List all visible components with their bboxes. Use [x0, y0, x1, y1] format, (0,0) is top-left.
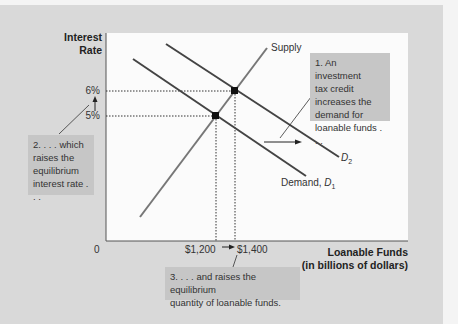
note1-line: tax credit	[315, 82, 385, 95]
supply-label: Supply	[271, 42, 302, 54]
x-tick-1400: $1,400	[237, 244, 268, 256]
note3-leader	[233, 255, 237, 267]
y-tick-5pct: 5%	[78, 110, 100, 122]
note1-line: 1. An investment	[315, 56, 385, 82]
equilibrium-point-new	[231, 87, 238, 94]
note1-line: increases the	[315, 95, 385, 108]
demand2-label: D2	[341, 152, 352, 168]
note-3: 3. . . . and raises the equilibrium quan…	[165, 267, 300, 300]
supply-curve	[140, 48, 267, 217]
shift-arrow-head	[295, 140, 302, 145]
qty-right-arrow-head	[229, 245, 235, 250]
equilibrium-point-initial	[212, 112, 219, 119]
note3-line: 3. . . . and raises the equilibrium	[170, 270, 295, 296]
demand2-subscript: 2	[348, 158, 352, 165]
x-axis-title: Loanable Funds (in billions of dollars)	[300, 246, 408, 272]
demand1-symbol: D	[324, 177, 331, 188]
note2-line: interest rate . . .	[33, 177, 89, 203]
demand1-label: Demand, D1	[281, 177, 336, 193]
y-axis-title: Interest Rate	[40, 31, 102, 57]
note-2: 2. . . . which raises the equilibrium in…	[28, 135, 94, 195]
note-1: 1. An investment tax credit increases th…	[310, 53, 390, 121]
y-tick-6pct: 6%	[78, 85, 100, 97]
note1-line: loanable funds . . .	[315, 121, 385, 147]
demand1-subscript: 1	[332, 183, 336, 190]
note2-line: 2. . . . which	[33, 138, 89, 151]
note2-line: raises the	[33, 151, 89, 164]
y-axis-title-line2: Rate	[79, 44, 102, 56]
x-tick-1200: $1,200	[185, 244, 216, 256]
note1-line: demand for	[315, 108, 385, 121]
x-axis-title-line1: Loanable Funds	[327, 246, 408, 258]
demand1-prefix: Demand,	[281, 177, 324, 188]
y-axis-title-line1: Interest	[64, 31, 102, 43]
note3-line: quantity of loanable funds.	[170, 296, 295, 309]
note1-leader	[280, 97, 311, 138]
x-axis-title-line2: (in billions of dollars)	[302, 259, 408, 271]
origin-label: 0	[94, 244, 100, 256]
note2-line: equilibrium	[33, 164, 89, 177]
